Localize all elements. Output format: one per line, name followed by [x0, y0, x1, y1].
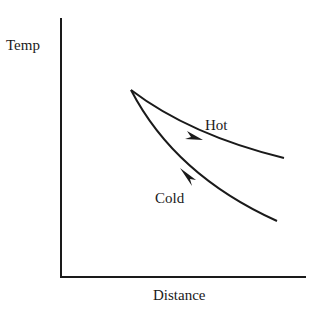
cold-curve-label: Cold — [155, 190, 185, 206]
hot-curve-label: Hot — [205, 117, 228, 133]
cold-curve — [131, 90, 277, 221]
cold-arrow-icon — [180, 168, 196, 186]
hot-arrow-icon — [185, 131, 203, 140]
heat-exchanger-diagram: Temp Distance Hot Cold — [0, 0, 324, 315]
x-axis-label: Distance — [153, 287, 206, 303]
y-axis-label: Temp — [6, 37, 40, 53]
